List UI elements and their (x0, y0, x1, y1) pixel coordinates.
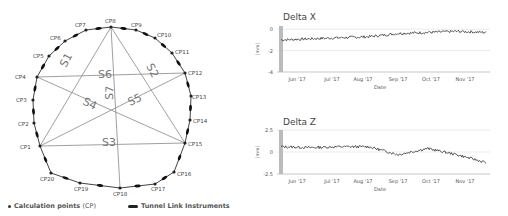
calc-point (32, 121, 35, 124)
calc-point-label: CP5 (33, 53, 44, 59)
delta-z-chart: Delta Z 2.50-2.5[mm]Jun '17Jul '17Aug '1… (255, 105, 508, 216)
calc-point (84, 28, 87, 31)
initial-period-band (279, 130, 283, 174)
tunnel-link-instrument (177, 154, 182, 161)
tunnel-link-instrument (189, 105, 192, 112)
calc-point-label: CP2 (18, 121, 29, 127)
y-tick-label: -4 (268, 69, 273, 75)
calc-point (172, 170, 175, 173)
x-tick-label: Jul '17 (323, 178, 339, 184)
calc-point (47, 54, 50, 57)
y-tick-label: 0 (270, 149, 273, 155)
y-tick-label: 2.5 (265, 127, 273, 133)
delta-x-chart: Delta X 0-2-4[mm]Jun '17Jul '17Aug '17Se… (255, 0, 508, 105)
calc-point-label: CP8 (105, 18, 116, 24)
x-tick-label: Sep '17 (389, 76, 408, 83)
calc-point (63, 39, 66, 42)
x-axis-label: Date (374, 84, 386, 90)
legend-instruments: Tunnel Link Instruments (128, 202, 230, 210)
tunnel-link-instrument (120, 27, 127, 31)
tunnel-link-instrument (185, 128, 189, 135)
tunnel-link-instrument (97, 184, 104, 188)
calc-point-label: CP4 (15, 74, 26, 80)
calc-point-label: CP14 (193, 118, 208, 124)
calc-point (188, 118, 191, 121)
x-tick-label: Aug '17 (353, 76, 372, 83)
x-tick-label: Oct '17 (422, 178, 440, 184)
calc-point (134, 28, 137, 31)
tunnel-link-instrument (186, 81, 190, 88)
data-line (281, 146, 486, 164)
calc-point-label: CP13 (192, 94, 207, 100)
calc-point-label: CP10 (157, 32, 172, 38)
delta-x-title: Delta X (283, 12, 316, 22)
calc-point (118, 186, 121, 189)
legend-calc-abbr: (CP) (82, 202, 96, 210)
legend-calc-points: Calculation points (CP) (8, 202, 96, 210)
tunnel-link-instrument (134, 184, 141, 188)
x-tick-label: Nov '17 (455, 76, 474, 82)
calc-point (49, 171, 52, 174)
tunnel-link-instrument (72, 33, 79, 38)
x-tick-label: Aug '17 (353, 178, 372, 185)
x-axis-label: Date (374, 186, 386, 192)
calc-point-label: CP6 (50, 35, 61, 41)
calc-point-label: CP11 (175, 49, 189, 55)
y-tick-label: 0 (270, 26, 273, 32)
segment-label: S1 (57, 51, 75, 69)
y-axis-label: [mm] (255, 146, 260, 159)
calc-point (31, 98, 34, 101)
calc-point-label: CP18 (113, 191, 128, 197)
initial-period-band (279, 26, 283, 72)
tunnel-link-instrument (95, 27, 102, 31)
calc-point-label: CP1 (20, 144, 31, 150)
x-tick-label: Jun '17 (287, 178, 305, 184)
calc-point-label: CP20 (40, 176, 55, 182)
segment-label: S5 (126, 91, 144, 109)
segment-label: S6 (98, 68, 112, 81)
y-tick-label: -2 (268, 48, 273, 54)
tunnel-link-instrument (62, 176, 69, 181)
x-tick-label: Nov '17 (455, 178, 474, 184)
calc-point-label: CP7 (75, 22, 86, 28)
calc-point (183, 71, 186, 74)
tunnel-cross-section-diagram: CP1CP2CP3CP4CP5CP6CP7CP8CP9CP10CP11CP12C… (0, 0, 255, 216)
delta-z-title: Delta Z (283, 117, 316, 127)
segment-label: S3 (102, 136, 116, 149)
instrument-dash-icon (128, 205, 138, 208)
legend-calc-label: Calculation points (14, 202, 80, 210)
calc-point (38, 144, 41, 147)
x-tick-label: Jun '17 (287, 76, 305, 82)
segment-label: S7 (103, 86, 116, 100)
legend-instruments-label: Tunnel Link Instruments (141, 202, 230, 210)
segment-line (111, 27, 120, 188)
x-tick-label: Jul '17 (323, 76, 339, 82)
x-tick-label: Oct '17 (422, 76, 440, 82)
calc-point-label: CP15 (188, 141, 203, 147)
calc-point-label: CP9 (131, 22, 142, 28)
x-tick-label: Sep '17 (389, 178, 408, 185)
tunnel-link-instrument (142, 31, 149, 36)
tunnel-link-instrument (33, 85, 37, 92)
segment-label: S2 (143, 61, 161, 79)
y-axis-label: [mm] (255, 43, 260, 56)
tunnel-link-instrument (32, 108, 35, 115)
calc-point-label: CP16 (177, 171, 192, 177)
calc-point (183, 141, 186, 144)
calc-point-label: CP19 (74, 186, 89, 192)
calc-point-label: CP12 (188, 70, 202, 76)
calc-point (109, 25, 112, 28)
calc-point-dot-icon (8, 205, 11, 208)
calc-point (78, 181, 81, 184)
tunnel-link-instrument (43, 156, 48, 163)
y-tick-label: -2.5 (263, 171, 273, 177)
data-line (281, 30, 486, 41)
tunnel-link-instrument (35, 131, 39, 138)
segment-line (111, 27, 185, 143)
calc-point-label: CP17 (151, 186, 166, 192)
calc-point (170, 51, 173, 54)
calc-point (35, 75, 38, 78)
calc-point-label: CP3 (16, 97, 27, 103)
